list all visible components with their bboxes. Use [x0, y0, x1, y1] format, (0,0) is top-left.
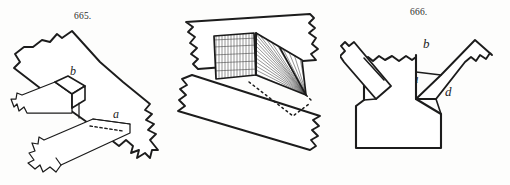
- figure-666-drawing: [170, 0, 345, 185]
- engraving-plate: 665. b a: [0, 0, 510, 185]
- brace-a-shoulder: [416, 72, 441, 75]
- figure-666: 666. b a d c: [170, 0, 345, 185]
- figure-667: 667. b a: [340, 0, 510, 185]
- label-665-b: b: [70, 64, 76, 79]
- label-665-a: a: [113, 107, 119, 122]
- figure-number-665: 665.: [74, 11, 91, 21]
- hidden-mortise-line-2: [306, 95, 312, 101]
- brace-b-inner-edge: [364, 99, 376, 100]
- brace-a: [416, 40, 492, 99]
- figure-665-drawing: [0, 0, 175, 185]
- lower-board: [28, 119, 130, 172]
- figure-667-drawing: [340, 0, 510, 185]
- figure-665: 665. b a: [0, 0, 175, 185]
